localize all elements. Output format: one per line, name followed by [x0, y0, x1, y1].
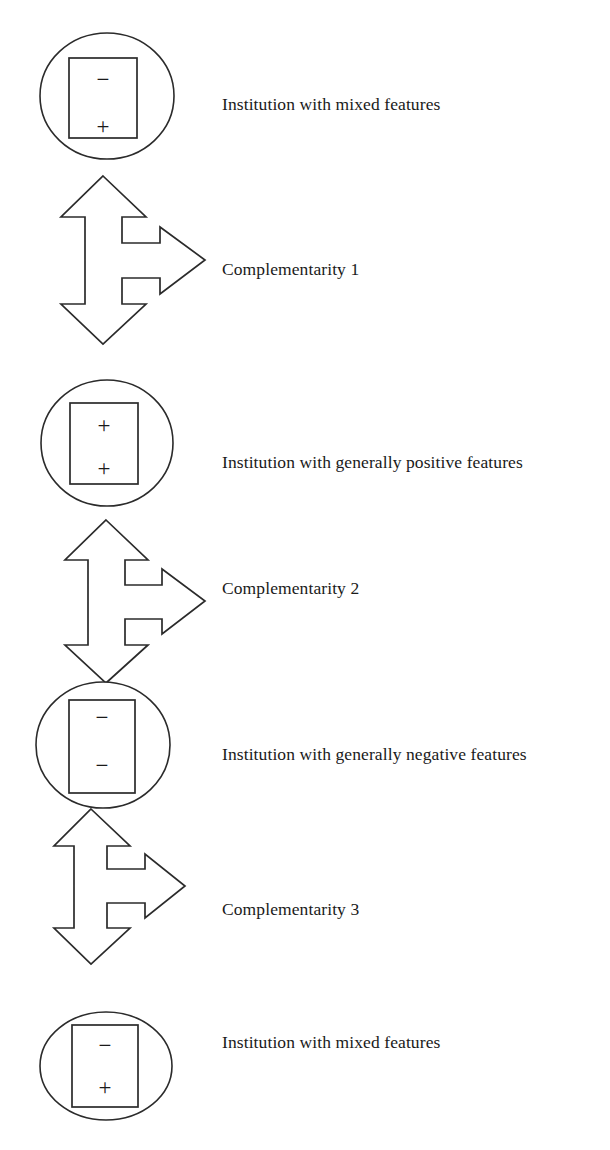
- node-4-label: Institution with mixed features: [222, 1032, 440, 1053]
- node-4-sign-bottom: +: [99, 1075, 112, 1100]
- node-2-sign-top: +: [98, 413, 111, 438]
- node-2-label: Institution with generally positive feat…: [222, 452, 523, 473]
- node-3-sign-top: −: [96, 705, 109, 730]
- node-1-ellipse: [40, 33, 174, 159]
- node-3-label: Institution with generally negative feat…: [222, 744, 527, 765]
- connector-3-group: [54, 809, 185, 964]
- connector-1-arrow: [61, 176, 205, 344]
- node-2-ellipse: [41, 380, 173, 506]
- node-4-ellipse: [40, 1012, 172, 1120]
- node-3-sign-bottom: −: [96, 753, 109, 778]
- connector-3-label: Complementarity 3: [222, 899, 359, 920]
- connector-1-label: Complementarity 1: [222, 259, 359, 280]
- node-4-group: − +: [40, 1012, 172, 1120]
- node-3-ellipse: [36, 682, 170, 808]
- node-1-group: − +: [40, 33, 174, 159]
- diagram-vector-layer: − + + + − −: [0, 0, 610, 1150]
- diagram-canvas: − + + + − −: [0, 0, 610, 1150]
- node-3-group: − −: [36, 682, 170, 808]
- node-2-sign-bottom: +: [98, 456, 111, 481]
- node-1-label: Institution with mixed features: [222, 94, 440, 115]
- connector-2-arrow: [65, 520, 205, 683]
- node-1-sign-bottom: +: [97, 114, 110, 139]
- connector-1-group: [61, 176, 205, 344]
- connector-2-label: Complementarity 2: [222, 578, 359, 599]
- node-4-sign-top: −: [99, 1033, 112, 1058]
- node-1-sign-top: −: [97, 67, 110, 92]
- connector-3-arrow: [54, 809, 185, 964]
- connector-2-group: [65, 520, 205, 683]
- node-2-group: + +: [41, 380, 173, 506]
